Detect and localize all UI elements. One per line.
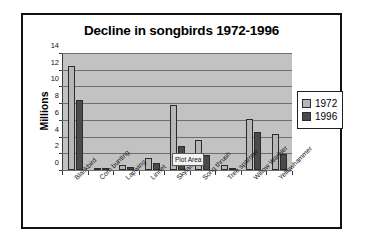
bar-group bbox=[63, 54, 88, 170]
y-axis-tick-label: 8 bbox=[55, 91, 59, 100]
bar-1972-tree-sparrow[interactable] bbox=[221, 165, 228, 170]
y-axis-tick-label: 4 bbox=[55, 124, 59, 133]
x-axis-labels: BlackbirdCorn buntingLapwingLinnetSkylar… bbox=[62, 173, 292, 229]
legend-item-1996[interactable]: 1996 bbox=[302, 111, 337, 122]
y-axis-tick-label: 0 bbox=[55, 158, 59, 167]
chart-frame: Decline in songbirds 1972-1996 Millions … bbox=[21, 13, 342, 229]
chart-title: Decline in songbirds 1972-1996 bbox=[23, 23, 340, 38]
y-axis-title: Millions bbox=[38, 81, 50, 141]
bar-group bbox=[139, 54, 164, 170]
y-axis-tick-label: 10 bbox=[51, 74, 59, 83]
bar-group bbox=[88, 54, 113, 170]
legend-item-1972[interactable]: 1972 bbox=[302, 98, 337, 109]
y-axis-tick-mark bbox=[59, 86, 62, 87]
y-axis-tick-label: 12 bbox=[51, 57, 59, 66]
y-axis-tick-mark bbox=[59, 153, 62, 154]
y-axis-tick-label: 14 bbox=[51, 41, 59, 50]
legend-swatch-icon bbox=[302, 99, 311, 108]
y-axis-tick-mark bbox=[59, 70, 62, 71]
plot-area-tooltip: Plot Area bbox=[172, 153, 204, 166]
legend-label: 1972 bbox=[315, 98, 337, 109]
bar-1996-blackbird[interactable] bbox=[76, 100, 83, 170]
chart-legend[interactable]: 19721996 bbox=[297, 91, 343, 129]
bar-1972-corn-bunting[interactable] bbox=[94, 168, 101, 170]
y-axis-tick-label: 6 bbox=[55, 107, 59, 116]
legend-swatch-icon bbox=[302, 112, 311, 121]
bar-1972-blackbird[interactable] bbox=[68, 66, 75, 170]
bar-1972-lapwing[interactable] bbox=[119, 165, 126, 170]
y-axis-tick-mark bbox=[59, 120, 62, 121]
y-axis-tick-label: 2 bbox=[55, 141, 59, 150]
y-axis-tick-mark bbox=[59, 103, 62, 104]
legend-label: 1996 bbox=[315, 111, 337, 122]
y-axis-tick-mark bbox=[59, 53, 62, 54]
x-axis-tick-mark bbox=[292, 171, 293, 175]
y-axis-tick-mark bbox=[59, 137, 62, 138]
